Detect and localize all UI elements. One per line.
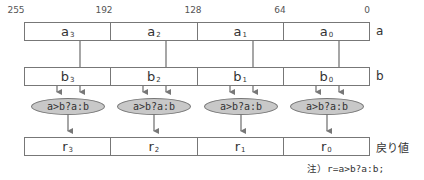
register-r: r3 r2 r1 r0 <box>24 137 370 156</box>
bit-label-255: 255 <box>7 5 24 15</box>
cell-b2: b2 <box>110 68 196 85</box>
bit-label-128: 128 <box>184 5 201 15</box>
operation-node-0: a>b?a:b <box>290 98 364 115</box>
bit-label-64: 64 <box>274 5 285 15</box>
footnote: 注）r=a>b?a:b; <box>307 161 384 175</box>
cell-b3: b3 <box>25 68 110 85</box>
cell-a2: a2 <box>110 23 196 40</box>
register-b: b3 b2 b1 b0 <box>24 67 370 86</box>
cell-r1: r1 <box>197 138 283 155</box>
footnote-expression: r=a>b?a:b; <box>327 163 384 174</box>
bit-label-192: 192 <box>95 5 112 15</box>
bit-label-0: 0 <box>364 5 370 15</box>
cell-r2: r2 <box>110 138 196 155</box>
cell-r3: r3 <box>25 138 110 155</box>
cell-a1: a1 <box>197 23 283 40</box>
operation-node-3: a>b?a:b <box>31 98 105 115</box>
footnote-prefix: 注） <box>307 163 327 174</box>
row-label-a: a <box>376 24 383 38</box>
register-a: a3 a2 a1 a0 <box>24 22 370 41</box>
cell-a3: a3 <box>25 23 110 40</box>
cell-b1: b1 <box>197 68 283 85</box>
cell-r0: r0 <box>283 138 369 155</box>
row-label-return-value: 戻り値 <box>376 139 409 155</box>
cell-b0: b0 <box>283 68 369 85</box>
operation-node-2: a>b?a:b <box>117 98 191 115</box>
row-label-b: b <box>376 69 384 83</box>
operation-node-1: a>b?a:b <box>204 98 278 115</box>
cell-a0: a0 <box>283 23 369 40</box>
